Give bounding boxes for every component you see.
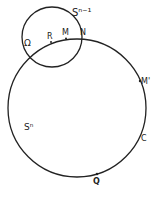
label-q: Q xyxy=(93,177,100,186)
label-m-prime: M' xyxy=(141,77,150,86)
label-m: M xyxy=(62,28,69,37)
label-n: N xyxy=(80,28,86,37)
big-sphere-circle xyxy=(8,39,146,177)
label-big-sphere: Sⁿ xyxy=(24,122,34,132)
label-small-sphere: Sⁿ⁻¹ xyxy=(72,7,92,18)
point-r-marker xyxy=(50,41,52,43)
label-c: C xyxy=(141,134,147,143)
point-q-marker xyxy=(96,173,98,175)
point-m-marker xyxy=(65,38,67,40)
label-omega: Ω xyxy=(24,38,31,48)
spheres-diagram: Sⁿ⁻¹ Ω R M N M' C Q Sⁿ xyxy=(0,0,160,197)
label-r: R xyxy=(47,32,53,41)
